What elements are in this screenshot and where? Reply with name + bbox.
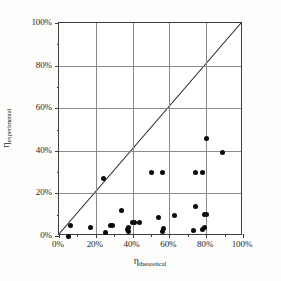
plot-area — [58, 22, 242, 235]
data-point — [149, 170, 154, 175]
gridline-vertical — [96, 23, 97, 234]
data-point — [68, 223, 73, 228]
data-point — [193, 204, 198, 209]
x-axis-title: ηtheoretical — [58, 255, 242, 266]
gridline-vertical — [206, 23, 207, 234]
data-point — [88, 225, 93, 230]
gridline-vertical — [133, 23, 134, 234]
gridline-horizontal — [59, 151, 241, 152]
x-axis-minor-tick — [225, 234, 226, 237]
gridline-horizontal — [59, 193, 241, 194]
y-axis-subscript: experimental — [5, 108, 12, 142]
y-axis-minor-tick — [57, 87, 60, 88]
y-axis-minor-tick — [57, 215, 60, 216]
x-tick-label: 60% — [160, 239, 176, 249]
data-point — [101, 176, 106, 181]
x-tick-label: 100% — [232, 239, 253, 249]
x-axis-minor-tick — [114, 234, 115, 237]
data-point — [191, 228, 196, 233]
data-point — [202, 225, 207, 230]
y-tick-label: 80% — [36, 60, 52, 70]
x-axis-tick — [169, 234, 170, 238]
gridline-horizontal — [59, 66, 241, 67]
x-tick-label: 80% — [197, 239, 213, 249]
data-point — [204, 136, 209, 141]
x-axis-tick — [243, 234, 244, 238]
y-axis-tick — [55, 236, 59, 237]
x-tick-label: 40% — [123, 239, 139, 249]
y-tick-label: 0% — [40, 230, 52, 240]
gridline-vertical — [169, 23, 170, 234]
y-tick-label: 100% — [31, 17, 52, 27]
x-axis-minor-tick — [151, 234, 152, 237]
y-axis-minor-tick — [57, 172, 60, 173]
y-tick-label: 20% — [36, 187, 52, 197]
data-point — [200, 170, 205, 175]
x-axis-minor-tick — [188, 234, 189, 237]
data-point — [103, 230, 108, 235]
y-axis-tick — [55, 193, 59, 194]
data-point — [193, 170, 198, 175]
x-axis-tick — [59, 234, 60, 238]
gridline-horizontal — [59, 108, 241, 109]
data-point — [110, 223, 115, 228]
y-axis-title: ηexperimental — [0, 108, 11, 147]
data-point — [119, 208, 124, 213]
x-axis-minor-tick — [77, 234, 78, 237]
y-axis-minor-tick — [57, 130, 60, 131]
x-tick-label: 0% — [52, 239, 64, 249]
y-axis-tick — [55, 66, 59, 67]
y-axis-tick — [55, 23, 59, 24]
data-point — [204, 212, 209, 217]
data-point — [66, 234, 71, 239]
y-tick-label: 40% — [36, 145, 52, 155]
data-point — [132, 220, 137, 225]
y-axis-tick — [55, 151, 59, 152]
data-point — [160, 170, 165, 175]
scatter-plot-figure: ηtheoretical ηexperimental 0%20%40%60%80… — [0, 0, 281, 281]
x-axis-subscript: theoretical — [139, 260, 166, 267]
x-axis-tick — [133, 234, 134, 238]
y-axis-tick — [55, 108, 59, 109]
y-axis-minor-tick — [57, 44, 60, 45]
x-tick-label: 20% — [87, 239, 103, 249]
y-tick-label: 60% — [36, 102, 52, 112]
y-axis-symbol: η — [0, 142, 11, 147]
identity-reference-line — [59, 23, 241, 234]
x-axis-tick — [96, 234, 97, 238]
x-axis-tick — [206, 234, 207, 238]
